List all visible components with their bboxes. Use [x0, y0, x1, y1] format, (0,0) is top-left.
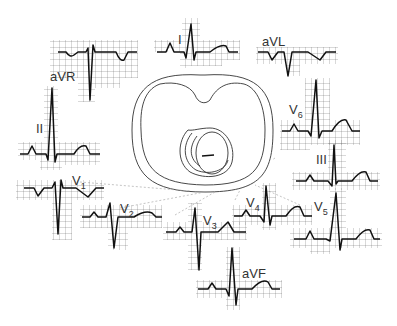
- lead-label-V6: V6: [289, 103, 303, 120]
- lead-label-V2: V2: [120, 202, 134, 219]
- lead-label-V1-sub: 1: [81, 181, 86, 191]
- lead-label-V4: V4: [246, 196, 260, 213]
- lead-label-V4-sub: 4: [255, 203, 260, 213]
- lead-label-aVL: aVL: [262, 35, 285, 48]
- chest-cross-section: [132, 75, 273, 192]
- lead-label-V3-text: V: [203, 213, 212, 228]
- lead-label-V5-sub: 5: [323, 207, 328, 217]
- lead-label-V6-text: V: [289, 102, 298, 117]
- lead-label-V4-text: V: [246, 195, 255, 210]
- lead-label-V1: V1: [72, 174, 86, 191]
- lead-V4-trace: [232, 183, 312, 230]
- ecg-diagram: [0, 0, 397, 326]
- lead-label-V6-sub: 6: [298, 110, 303, 120]
- lead-aVL-trace: [256, 47, 338, 76]
- lead-label-V2-text: V: [120, 201, 129, 216]
- lead-label-V5-text: V: [314, 199, 323, 214]
- lead-label-aVR: aVR: [50, 70, 75, 83]
- lead-label-V3: V3: [203, 214, 217, 231]
- lead-label-V2-sub: 2: [129, 209, 134, 219]
- lead-label-V5: V5: [314, 200, 328, 217]
- lead-label-aVF: aVF: [242, 267, 266, 280]
- lead-aVF-trace: [196, 247, 282, 310]
- lead-label-III: III: [316, 153, 327, 166]
- lead-I-trace: [154, 18, 240, 68]
- lead-label-I: I: [178, 33, 182, 46]
- lead-label-II: II: [36, 122, 43, 135]
- lead-label-V1-text: V: [72, 173, 81, 188]
- lead-label-V3-sub: 3: [212, 221, 217, 231]
